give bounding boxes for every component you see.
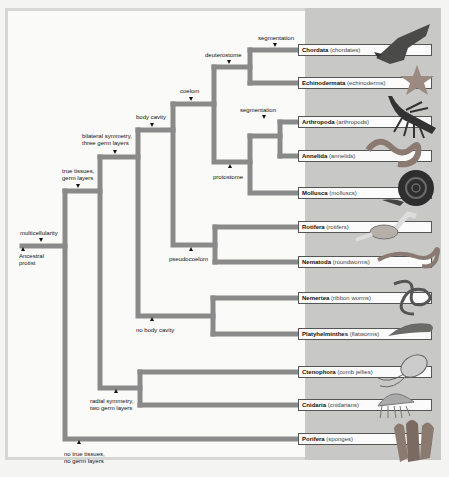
earthworm-icon [362,136,426,172]
label-deuterostome: deuterostome [205,52,242,59]
label-ancestral-protist-2: protist [19,260,35,267]
lobster-icon [384,94,440,140]
label-protostome: protostome [213,174,243,181]
ribbon-worm-icon [384,278,436,318]
rotifer-icon [354,206,420,246]
eagle-icon [368,20,438,68]
starfish-icon [398,64,436,96]
label-no-true-tissues-1: no true tissues, [64,451,105,458]
label-no-body-cavity: no body cavity [136,327,174,334]
label-multicellularity: multicellularity [20,230,58,237]
label-radial-symmetry-1: radial symmetry, [90,398,134,405]
sponge-icon [390,414,438,464]
snail-icon [380,168,438,210]
label-coelom: coelom [180,88,199,95]
label-no-true-tissues-2: no germ layers [64,458,104,465]
label-ancestral-protist-1: Ancestral [19,253,44,260]
arrow-down-icon [39,238,43,242]
label-bilateral-symmetry-1: bilateral symmetry, [82,133,132,140]
label-true-tissues-2: germ layers [62,175,93,182]
flatworm-icon [386,318,438,346]
label-segmentation-deuterostome: segmentation [258,35,294,42]
label-pseudocoelom: pseudocoelom [169,256,208,263]
label-true-tissues-1: true tissues, [62,168,94,175]
label-radial-symmetry-2: two germ layers [90,405,132,412]
label-segmentation-protostome: segmentation [240,107,276,114]
roundworm-icon [374,246,442,272]
label-body-cavity: body cavity [136,114,166,121]
label-bilateral-symmetry-2: three germ layers [82,140,129,147]
